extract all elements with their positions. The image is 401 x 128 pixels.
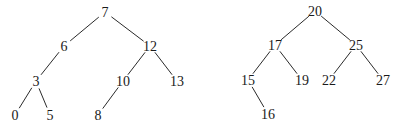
tree-edge (111, 17, 143, 41)
tree-node-15: 15 (241, 73, 255, 88)
edges-layer (19, 16, 378, 109)
binary-trees-diagram: 7612310130582017251519222716 (0, 0, 401, 128)
tree-node-12: 12 (143, 39, 157, 54)
tree-edge (19, 88, 32, 108)
tree-node-5: 5 (47, 108, 54, 123)
tree-edge (70, 17, 99, 41)
right-tree-edges (252, 16, 378, 107)
tree-node-16: 16 (261, 107, 275, 122)
tree-node-17: 17 (268, 38, 282, 53)
tree-edge (281, 16, 309, 40)
tree-edge (41, 52, 59, 75)
tree-edge (39, 88, 47, 107)
tree-edge (280, 51, 297, 73)
left-tree-nodes: 761231013058 (12, 5, 185, 123)
tree-edge (253, 51, 270, 73)
tree-node-3: 3 (33, 74, 40, 89)
tree-node-27: 27 (376, 73, 390, 88)
tree-edge (103, 87, 119, 108)
tree-edge (321, 16, 350, 40)
tree-node-10: 10 (116, 74, 130, 89)
tree-node-25: 25 (349, 38, 363, 53)
tree-node-0: 0 (12, 108, 19, 123)
tree-node-20: 20 (308, 4, 322, 19)
right-tree-nodes: 2017251519222716 (241, 4, 390, 122)
tree-node-22: 22 (322, 73, 336, 88)
tree-edge (334, 51, 351, 73)
nodes-layer: 7612310130582017251519222716 (12, 4, 391, 123)
tree-node-19: 19 (295, 73, 309, 88)
left-tree-edges (19, 17, 172, 109)
tree-edge (155, 52, 172, 74)
tree-node-13: 13 (170, 74, 184, 89)
tree-node-6: 6 (61, 39, 68, 54)
tree-edge (252, 87, 264, 107)
tree-edge (361, 51, 378, 73)
tree-edge (128, 52, 145, 74)
tree-node-8: 8 (95, 108, 102, 123)
tree-node-7: 7 (102, 5, 109, 20)
